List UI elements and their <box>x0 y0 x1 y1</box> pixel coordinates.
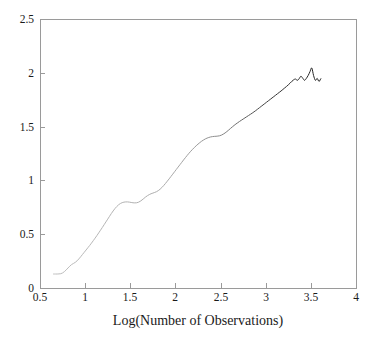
y-tick-label: 0.5 <box>20 228 35 240</box>
x-tick-label: 3.5 <box>304 291 319 303</box>
y-axis-ticks <box>40 19 45 288</box>
x-tick-label: 4 <box>353 291 359 303</box>
chart-figure: 0.5 1 1.5 2 2.5 3 3.5 4 0 0.5 1 1.5 2 2.… <box>0 0 374 342</box>
y-tick-labels: 0 0.5 1 1.5 2 2.5 <box>20 13 35 294</box>
x-tick-label: 3 <box>263 291 269 303</box>
y-tick-label: 2 <box>28 67 34 79</box>
x-tick-label: 0.5 <box>33 291 48 303</box>
x-tick-label: 2 <box>172 291 178 303</box>
y-tick-label: 1.5 <box>20 121 35 133</box>
x-tick-labels: 0.5 1 1.5 2 2.5 3 3.5 4 <box>33 291 359 303</box>
data-series-curve <box>54 68 321 274</box>
line-chart-svg: 0.5 1 1.5 2 2.5 3 3.5 4 0 0.5 1 1.5 2 2.… <box>0 0 374 342</box>
y-tick-label: 2.5 <box>20 13 35 25</box>
x-tick-label: 2.5 <box>214 291 229 303</box>
x-axis-ticks <box>40 283 356 288</box>
x-tick-label: 1.5 <box>123 291 138 303</box>
y-tick-label: 0 <box>28 282 34 294</box>
x-tick-label: 1 <box>82 291 88 303</box>
y-tick-label: 1 <box>28 174 34 186</box>
x-axis-title: Log(Number of Observations) <box>113 313 284 329</box>
